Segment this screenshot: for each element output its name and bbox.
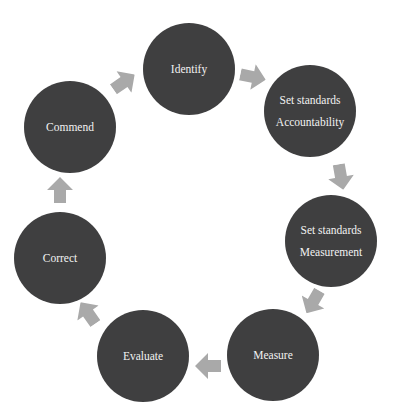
node-measure: Measure [227,309,319,401]
arrow-right-icon [106,64,142,100]
node-correct: Correct [14,212,106,304]
cycle-diagram: Identify Set standards Accountability Se… [0,0,394,419]
node-label-line2: Accountability [276,111,344,133]
node-label-line1: Set standards [279,89,340,111]
node-set-standards-measurement: Set standards Measurement [285,195,377,287]
node-set-standards-accountability: Set standards Accountability [264,65,356,157]
arrow-right-icon [238,62,269,93]
arrow-down-left-icon [295,284,331,320]
node-label: Evaluate [123,345,163,367]
arrow-up-icon [47,177,73,203]
node-label-line2: Measurement [300,241,363,263]
node-label-line1: Set standards [300,219,361,241]
node-commend: Commend [24,81,116,173]
node-label: Measure [253,344,293,366]
node-identify: Identify [143,23,235,115]
node-label: Correct [43,247,77,269]
arrow-left-icon [195,353,221,379]
node-label: Identify [171,58,207,80]
arrow-down-icon [326,162,356,192]
node-label: Commend [46,116,94,138]
node-evaluate: Evaluate [97,310,189,402]
